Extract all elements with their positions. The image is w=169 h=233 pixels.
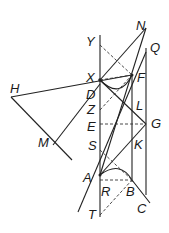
label-Y: Y <box>86 34 96 49</box>
point-X <box>98 78 102 82</box>
label-N: N <box>136 18 146 33</box>
label-K: K <box>134 137 144 152</box>
label-T: T <box>88 207 97 222</box>
label-H: H <box>10 81 20 96</box>
label-C: C <box>137 201 147 216</box>
line-H-to-C <box>11 97 72 160</box>
label-D: D <box>86 87 95 102</box>
geometry-diagram: N Y Q X F H D Z L E G M S K A R B C T <box>0 0 169 233</box>
label-L: L <box>136 98 143 113</box>
label-Q: Q <box>150 40 160 55</box>
dashed-SB <box>100 150 132 180</box>
label-R: R <box>101 184 110 199</box>
label-B: B <box>126 184 135 199</box>
label-A: A <box>82 170 92 185</box>
label-M: M <box>38 135 49 150</box>
point-F <box>131 74 134 77</box>
label-F: F <box>137 70 146 85</box>
label-G: G <box>151 116 161 131</box>
label-E: E <box>87 119 96 134</box>
label-Z: Z <box>86 102 96 117</box>
label-S: S <box>88 138 97 153</box>
label-X: X <box>85 70 96 85</box>
dashed-XF <box>100 75 132 80</box>
point-A <box>99 174 102 177</box>
